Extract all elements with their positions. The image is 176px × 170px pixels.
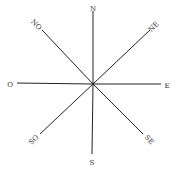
direction-label-se: SE (143, 134, 156, 147)
direction-line-so (40, 84, 93, 134)
direction-line-o (17, 83, 93, 84)
direction-label-so: SO (27, 133, 40, 146)
compass-labels: NNEESESSOONO (7, 5, 169, 167)
direction-label-n: N (90, 5, 96, 13)
direction-label-no: NO (29, 18, 43, 32)
direction-label-e: E (164, 82, 169, 90)
direction-label-o: O (7, 81, 13, 89)
direction-line-no (42, 30, 93, 84)
direction-line-se (93, 84, 143, 134)
direction-line-ne (93, 30, 150, 84)
direction-label-s: S (90, 159, 95, 167)
compass-lines (17, 11, 161, 154)
direction-label-ne: NE (147, 20, 161, 34)
compass-rose: NNEESESSOONO (0, 0, 176, 170)
direction-line-s (92, 84, 93, 154)
